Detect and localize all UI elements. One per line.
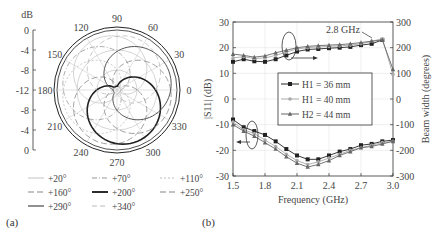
legend-label: +250°: [180, 188, 204, 198]
y-left-tick-label: 20: [219, 42, 229, 53]
legend-label: +70°: [112, 174, 131, 184]
angle-tick-label: 270: [110, 157, 125, 168]
radial-tick-label: -8: [21, 65, 29, 76]
x-tick-label: 2.1: [291, 180, 304, 191]
legend-label: +110°: [180, 174, 203, 184]
y-left-tick-label: -30: [216, 171, 229, 182]
angle-tick-label: 300: [146, 147, 161, 158]
pattern-curve: [104, 47, 171, 120]
y-left-tick-label: -20: [216, 145, 229, 156]
pattern-curve: [74, 77, 147, 144]
y-right-tick-label: -300: [396, 171, 414, 182]
legend-label: +200°: [112, 188, 136, 198]
y-left-tick-label: 30: [219, 17, 229, 28]
y-right-tick-label: -200: [396, 145, 414, 156]
y-left-tick-label: -10: [216, 119, 229, 130]
y-right-axis-label: Beam width (degrees): [420, 55, 432, 143]
pattern-curve: [104, 60, 171, 133]
polar-plot: 0306090120150180210240270300330dB0-4-8-1…: [6, 9, 204, 229]
pattern-curve: [87, 77, 160, 144]
y-left-tick-label: 10: [219, 68, 229, 79]
angle-tick-label: 330: [172, 121, 187, 132]
legend-label: H1 = 36 mm: [302, 80, 351, 90]
legend-label: +290°: [48, 202, 72, 212]
panel-label-b: (b): [202, 216, 215, 229]
radial-tick-label: 0: [24, 25, 29, 36]
arrow-left-icon: [236, 140, 241, 144]
x-axis-label: Frequency (GHz): [278, 194, 348, 206]
legend-label: +160°: [48, 188, 72, 198]
angle-tick-label: 60: [148, 22, 158, 33]
radial-tick-label: -8: [21, 105, 29, 116]
x-tick-label: 1.8: [259, 180, 272, 191]
legend: H1 = 36 mmH1 = 40 mmH2 = 44 mm: [278, 73, 372, 125]
angle-tick-label: 240: [74, 147, 89, 158]
y-right-tick-label: 200: [396, 42, 411, 53]
x-tick-label: 3.0: [387, 180, 400, 191]
angle-tick-label: 210: [47, 121, 62, 132]
y-right-tick-label: 100: [396, 68, 411, 79]
sparam-beamwidth-plot: 1.51.82.12.42.73.03020100-10-20-30300200…: [202, 17, 432, 230]
pattern-curve: [74, 36, 147, 103]
arrow-right-icon: [313, 56, 318, 60]
series-line: [233, 120, 393, 160]
x-tick-label: 2.7: [355, 180, 368, 191]
radial-tick-label: -12: [16, 85, 29, 96]
y-left-tick-label: 0: [224, 94, 229, 105]
y-right-tick-label: -100: [396, 119, 414, 130]
legend-label: +20°: [48, 174, 67, 184]
pattern-curve: [87, 36, 160, 103]
figure: 0306090120150180210240270300330dB0-4-8-1…: [0, 0, 445, 240]
radial-tick-label: -4: [21, 45, 29, 56]
marker: [274, 139, 278, 143]
radial-unit-label: dB: [21, 9, 33, 20]
angle-tick-label: 150: [47, 49, 62, 60]
y-right-tick-label: 300: [396, 17, 411, 28]
panel-label-a: (a): [6, 216, 19, 229]
radial-tick-label: 0: [24, 145, 29, 156]
radial-tick-label: -4: [21, 125, 29, 136]
y-right-tick-label: 0: [396, 94, 401, 105]
angle-tick-label: 180: [38, 85, 53, 96]
angle-tick-label: 120: [74, 22, 89, 33]
marker: [295, 153, 299, 157]
group-ellipse-beamwidth: [282, 32, 296, 60]
pattern-curve: [63, 60, 130, 133]
marker: [231, 52, 235, 56]
marker: [231, 60, 235, 64]
angle-tick-label: 0: [187, 85, 192, 96]
legend-label: +340°: [112, 202, 136, 212]
marker: [391, 73, 395, 77]
legend-label: H1 = 40 mm: [302, 95, 351, 105]
marker: [274, 57, 278, 61]
marker: [263, 133, 267, 137]
angle-tick-label: 90: [112, 13, 122, 24]
x-tick-label: 1.5: [227, 180, 240, 191]
angle-tick-label: 30: [174, 49, 184, 60]
marker: [263, 60, 267, 64]
x-tick-label: 2.4: [323, 180, 336, 191]
marker: [231, 56, 235, 60]
legend-label: H2 = 44 mm: [302, 110, 351, 120]
y-left-axis-label: |S11| (dB): [202, 79, 214, 119]
marker: [306, 157, 310, 161]
annotation-2p8ghz: 2.8 GHz: [326, 24, 360, 35]
marker: [284, 147, 288, 151]
